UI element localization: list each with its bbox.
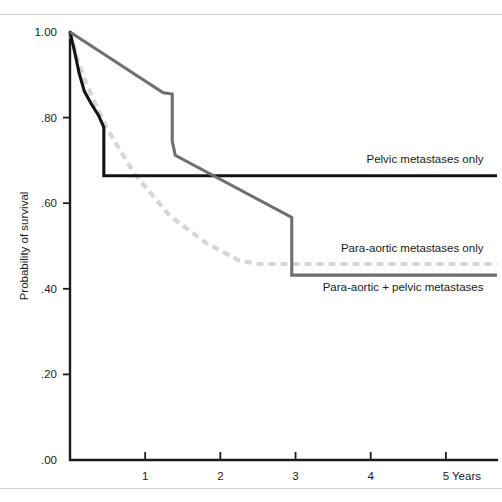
y-axis-tick-label: .20 — [41, 368, 57, 380]
x-axis-ticks: 12345 — [142, 452, 449, 482]
x-axis-tick-label: 4 — [368, 470, 375, 482]
x-axis-tick-label: 5 — [443, 470, 449, 482]
y-axis-ticks: 1.00.80.60.40.20.00 — [35, 26, 70, 466]
survival-curve — [70, 32, 497, 264]
y-axis-tick-label: .00 — [41, 454, 57, 466]
y-axis-title: Probability of survival — [18, 192, 30, 301]
y-axis-tick-label: .80 — [41, 112, 57, 124]
x-axis-tick-label: 1 — [142, 470, 148, 482]
series-labels: Pelvic metastases onlyPara-aortic + pelv… — [323, 153, 484, 293]
y-axis-tick-label: .60 — [41, 197, 57, 209]
kaplan-meier-plot: 1.00.80.60.40.20.00 12345 Pelvic metasta… — [0, 0, 502, 502]
x-axis-tick-label: 2 — [217, 470, 223, 482]
y-axis-tick-label: 1.00 — [35, 26, 57, 38]
series-label: Para-aortic + pelvic metastases — [323, 281, 484, 293]
x-axis-tick-label: 3 — [292, 470, 298, 482]
x-axis-title: Years — [452, 470, 481, 482]
series-label: Pelvic metastases only — [366, 153, 483, 165]
y-axis-tick-label: .40 — [41, 283, 57, 295]
series-label: Para-aortic metastases only — [341, 242, 484, 254]
survival-curve-figure: 1.00.80.60.40.20.00 12345 Pelvic metasta… — [0, 0, 502, 502]
